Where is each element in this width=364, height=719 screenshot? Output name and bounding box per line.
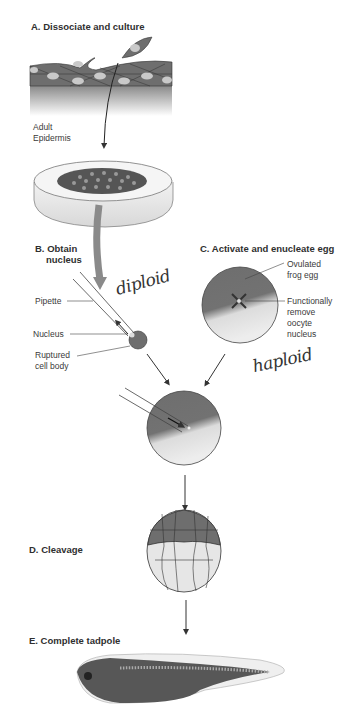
pipette-label: Pipette (35, 296, 61, 307)
section-e-title: E. Complete tadpole (29, 635, 120, 646)
adult-epidermis-label: Adult Epidermis (33, 122, 71, 144)
nucleus-label: Nucleus (33, 329, 64, 340)
remove-label-line4: nucleus (287, 329, 332, 340)
remove-label-line1: Functionally (287, 296, 332, 307)
section-b-title: B. Obtain nucleus (35, 243, 82, 265)
adult-epidermis-label-line1: Adult (33, 122, 71, 133)
cleavage-embryo-illustration (147, 510, 221, 592)
ruptured-label-line1: Ruptured (35, 350, 70, 361)
frog-egg-illustration (202, 263, 285, 343)
egg-label-line2: frog egg (287, 270, 321, 281)
remove-nucleus-label: Functionally remove oocyte nucleus (287, 296, 332, 340)
ovulated-frog-egg-label: Ovulated frog egg (287, 259, 321, 281)
remove-label-line2: remove (287, 307, 332, 318)
section-b-title-line2: nucleus (35, 254, 82, 265)
section-a-title: A. Dissociate and culture (31, 21, 145, 32)
section-d-title: D. Cleavage (29, 544, 83, 555)
ruptured-label-line2: cell body (35, 361, 70, 372)
egg-label-line1: Ovulated (287, 259, 321, 270)
adult-epidermis-label-line2: Epidermis (33, 133, 71, 144)
remove-label-line3: oocyte (287, 318, 332, 329)
ruptured-cell-body-label: Ruptured cell body (35, 350, 70, 372)
injected-egg-illustration (119, 388, 221, 465)
tadpole-illustration (77, 654, 284, 703)
section-b-title-line1: B. Obtain (35, 243, 82, 254)
section-c-title: C. Activate and enucleate egg (200, 243, 334, 254)
